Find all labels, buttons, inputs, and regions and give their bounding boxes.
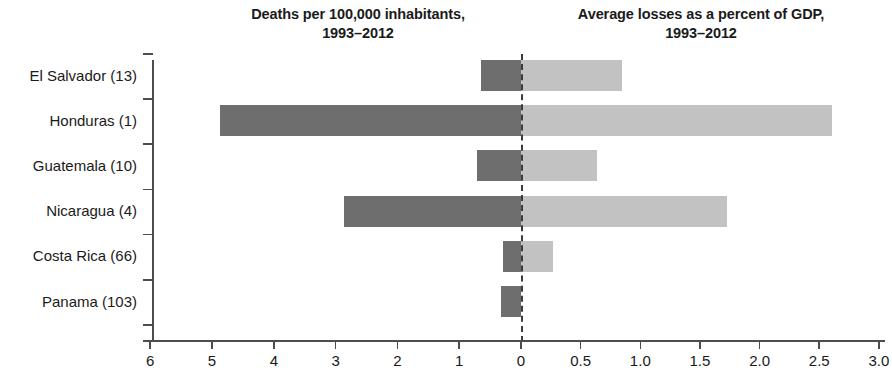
x-axis-label-right: 2.5 [809, 352, 830, 370]
y-axis-tick [143, 234, 153, 236]
right-series-title-line1: Average losses as a percent of GDP, [510, 5, 892, 24]
x-axis-line [143, 340, 885, 342]
x-axis-label-right: 1.5 [690, 352, 711, 370]
x-axis-label-right: 3.0 [868, 352, 889, 370]
x-axis-label-left: 3 [331, 352, 339, 370]
bar-gdp-losses [521, 241, 553, 272]
x-axis-tick [458, 340, 460, 349]
bar-deaths [481, 60, 521, 91]
bar-gdp-losses [521, 196, 727, 227]
x-axis-tick [818, 340, 820, 349]
y-axis-tick [143, 53, 153, 55]
x-axis-tick [580, 340, 582, 349]
y-axis-label: Honduras (1) [49, 112, 137, 130]
x-axis-tick [397, 340, 399, 349]
x-axis-label-left: 1 [455, 352, 463, 370]
x-axis-label-right: 2.0 [749, 352, 770, 370]
x-axis-tick [520, 340, 522, 349]
zero-reference-line [521, 54, 523, 342]
bar-gdp-losses [521, 105, 832, 136]
x-axis-label-left: 2 [393, 352, 401, 370]
left-series-title-line2: 1993–2012 [148, 24, 568, 43]
y-axis-tick [143, 98, 153, 100]
bar-deaths [344, 196, 521, 227]
y-axis-label: Panama (103) [42, 293, 137, 311]
y-axis-tick [143, 143, 153, 145]
x-axis-tick [149, 340, 151, 349]
x-axis-tick [335, 340, 337, 349]
x-axis-tick [759, 340, 761, 349]
plot-area: El Salvador (13)Honduras (1)Guatemala (1… [0, 52, 892, 373]
y-axis-label: El Salvador (13) [29, 67, 137, 85]
chart-container: Deaths per 100,000 inhabitants, 1993–201… [0, 0, 892, 373]
left-series-title-line1: Deaths per 100,000 inhabitants, [148, 5, 568, 24]
y-axis-tick [143, 189, 153, 191]
x-axis-tick [640, 340, 642, 349]
right-series-title: Average losses as a percent of GDP, 1993… [510, 5, 892, 43]
y-axis-labels: El Salvador (13)Honduras (1)Guatemala (1… [0, 52, 148, 340]
x-axis-tick [878, 340, 880, 349]
x-axis-label-left: 6 [146, 352, 154, 370]
x-axis-label-left: 4 [270, 352, 278, 370]
y-axis-tick [143, 324, 153, 326]
y-axis-tick [143, 279, 153, 281]
x-axis-label-right: 0.5 [570, 352, 591, 370]
bar-deaths [220, 105, 521, 136]
bar-deaths [501, 286, 521, 317]
bar-deaths [477, 150, 521, 181]
bar-gdp-losses [521, 150, 597, 181]
x-axis-label-right: 1.0 [630, 352, 651, 370]
x-axis-tick [273, 340, 275, 349]
bar-deaths [503, 241, 521, 272]
bar-gdp-losses [521, 60, 622, 91]
x-axis-tick [699, 340, 701, 349]
y-axis-line [152, 60, 154, 340]
x-axis-label-left: 0 [517, 352, 525, 370]
y-axis-label: Costa Rica (66) [33, 247, 137, 265]
x-axis-tick [211, 340, 213, 349]
left-series-title: Deaths per 100,000 inhabitants, 1993–201… [148, 5, 568, 43]
right-series-title-line2: 1993–2012 [510, 24, 892, 43]
x-axis-label-left: 5 [208, 352, 216, 370]
chart-titles: Deaths per 100,000 inhabitants, 1993–201… [0, 0, 892, 52]
y-axis-label: Nicaragua (4) [46, 202, 137, 220]
y-axis-label: Guatemala (10) [33, 157, 137, 175]
